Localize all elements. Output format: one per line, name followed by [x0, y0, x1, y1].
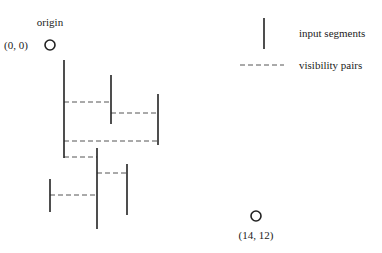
target-coord-label: (14, 12): [239, 229, 274, 242]
visibility-diagram: origin (0, 0) (14, 12) input segments vi…: [0, 0, 382, 253]
origin-coord-label: (0, 0): [4, 39, 28, 52]
origin-circle-icon: [45, 40, 55, 50]
input-segments: [50, 60, 158, 229]
legend-segment-label: input segments: [299, 27, 365, 39]
legend: input segments visibility pairs: [240, 18, 365, 71]
visibility-pairs: [50, 102, 158, 195]
origin-label: origin: [37, 16, 64, 28]
legend-pairs-label: visibility pairs: [299, 59, 362, 71]
target-circle-icon: [251, 211, 261, 221]
